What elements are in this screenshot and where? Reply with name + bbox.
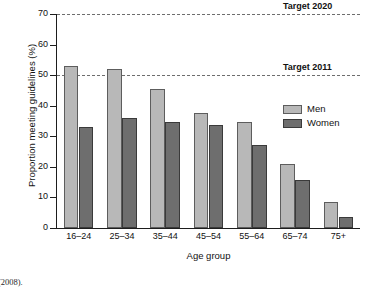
x-tick-label-1: 25–34 <box>100 231 143 241</box>
y-tick-70 <box>50 14 57 15</box>
bar-men-45_54 <box>194 113 209 228</box>
x-tick-label-4: 55–64 <box>230 231 273 241</box>
legend-label-men: Men <box>307 104 325 114</box>
legend-swatch-women-icon <box>283 119 302 128</box>
target-label-70: Target 2020 <box>283 1 332 11</box>
legend-item-men: Men <box>283 104 340 114</box>
source-caption: e (2008). <box>0 277 23 287</box>
x-tick-label-0: 16–24 <box>57 231 100 241</box>
legend: Men Women <box>283 104 340 132</box>
y-axis-title: Proportion meeting guidelines (%) <box>26 21 37 211</box>
y-tick-50 <box>50 75 57 76</box>
x-axis-title: Age group <box>57 250 360 261</box>
y-tick-label-60: 60 <box>26 40 48 49</box>
bar-women-35_44 <box>165 122 180 228</box>
y-tick-label-20: 20 <box>26 162 48 171</box>
bar-men-35_44 <box>150 89 165 228</box>
bar-men-25_34 <box>107 69 122 228</box>
y-tick-label-50: 50 <box>26 70 48 79</box>
bar-men-16_24 <box>64 66 79 228</box>
legend-item-women: Women <box>283 118 340 128</box>
y-tick-20 <box>50 167 57 168</box>
target-line-50 <box>57 75 360 76</box>
bar-women-16_24 <box>79 127 94 228</box>
x-tick-label-3: 45–54 <box>187 231 230 241</box>
y-tick-label-40: 40 <box>26 101 48 110</box>
y-tick-0 <box>50 228 57 229</box>
x-axis-line <box>56 228 360 229</box>
target-line-70 <box>57 14 360 15</box>
bar-women-45_54 <box>209 125 224 228</box>
y-tick-10 <box>50 197 57 198</box>
bar-chart-figure: Proportion meeting guidelines (%) 010203… <box>0 0 365 299</box>
bar-women-55_64 <box>252 145 267 228</box>
bar-men-65_74 <box>280 164 295 228</box>
y-tick-30 <box>50 136 57 137</box>
target-label-50: Target 2011 <box>283 62 332 72</box>
x-tick-label-2: 35–44 <box>144 231 187 241</box>
x-tick-label-6: 75+ <box>317 231 360 241</box>
legend-swatch-men-icon <box>283 105 302 114</box>
y-tick-60 <box>50 45 57 46</box>
bar-women-65_74 <box>295 180 310 228</box>
y-tick-label-10: 10 <box>26 192 48 201</box>
y-tick-label-0: 0 <box>26 223 48 232</box>
legend-label-women: Women <box>307 118 340 128</box>
bar-women-25_34 <box>122 118 137 228</box>
y-tick-label-70: 70 <box>26 9 48 18</box>
bar-women-75+ <box>339 217 354 228</box>
x-tick-label-5: 65–74 <box>273 231 316 241</box>
y-tick-label-30: 30 <box>26 131 48 140</box>
bar-men-75+ <box>324 202 339 228</box>
y-tick-40 <box>50 106 57 107</box>
bar-men-55_64 <box>237 122 252 228</box>
